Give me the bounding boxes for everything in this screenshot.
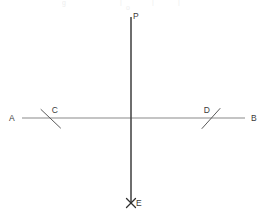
label-point-p: P (133, 11, 139, 21)
artifact-glyph-1: g (62, 0, 66, 7)
figure-background (0, 0, 266, 220)
label-point-d: D (204, 105, 210, 115)
label-point-a: A (9, 113, 15, 123)
geometry-canvas: g | | | o A B C D E P (0, 0, 266, 220)
label-point-c: C (52, 105, 58, 115)
geometry-figure: g | | | o A B C D E P (0, 0, 266, 220)
artifact-glyph-5: o (126, 4, 130, 11)
label-point-b: B (251, 113, 257, 123)
label-point-e: E (136, 198, 142, 208)
